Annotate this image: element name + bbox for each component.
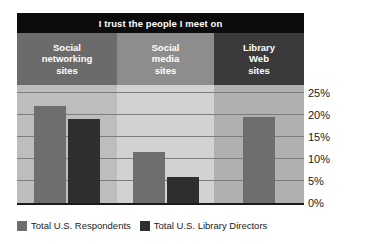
category-header-line: Web [249,53,269,65]
category-header-row: SocialnetworkingsitesSocialmediasitesLib… [17,33,304,85]
bar-1-1 [167,177,199,203]
plot-area [17,85,304,205]
chart-title: I trust the people I meet on [99,18,223,29]
legend-swatch-icon [17,221,27,231]
gridline [17,92,304,93]
category-header-line: Social [53,42,81,54]
category-band-0 [17,85,117,205]
legend-label: Total U.S. Respondents [31,220,131,231]
chart-legend: Total U.S. RespondentsTotal U.S. Library… [17,220,267,231]
chart-title-band: I trust the people I meet on [17,13,304,33]
chart-figure: I trust the people I meet on Socialnetwo… [0,0,370,244]
legend-label: Total U.S. Library Directors [154,220,268,231]
bar-0-1 [68,119,100,203]
legend-swatch-icon [140,221,150,231]
y-axis-tick: 15% [308,131,330,143]
category-header-line: sites [56,65,78,77]
category-header-line: sites [155,65,177,77]
legend-item-1: Total U.S. Library Directors [140,220,268,231]
category-header-0: Socialnetworkingsites [17,33,117,85]
y-axis-tick: 5% [308,175,324,187]
bar-0-0 [34,106,66,203]
y-axis-tick: 10% [308,153,330,165]
y-axis-labels: 25%20%15%10%5%0% [308,85,368,207]
y-axis-tick: 0% [308,197,324,209]
category-header-2: LibraryWebsites [214,33,304,85]
y-axis-tick: 25% [308,87,330,99]
axis-baseline [17,203,304,205]
category-header-1: Socialmediasites [117,33,214,85]
category-header-line: Library [243,42,275,54]
category-header-line: Social [152,42,180,54]
bar-1-0 [133,152,165,203]
category-header-line: sites [248,65,270,77]
category-header-line: media [152,53,179,65]
category-header-line: networking [42,53,93,65]
legend-item-0: Total U.S. Respondents [17,220,131,231]
bar-2-0 [243,117,275,203]
y-axis-tick: 20% [308,109,330,121]
